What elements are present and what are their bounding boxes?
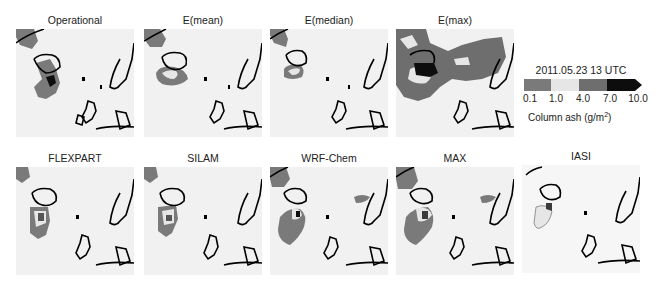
tick-label: 7.0 — [603, 93, 617, 104]
colorbar-seg-1 — [551, 79, 579, 91]
panel-title: Operational — [16, 14, 134, 26]
colorbar-ticks: 0.1 1.0 4.0 7.0 10.0 — [520, 93, 658, 105]
panel-title: E(max) — [396, 14, 514, 26]
ash-map — [16, 29, 134, 137]
ash-map — [270, 29, 388, 137]
tick-label: 0.1 — [523, 93, 537, 104]
panel-title: IASI — [522, 150, 640, 162]
tick-label: 1.0 — [549, 93, 563, 104]
label-suffix: ) — [608, 112, 611, 123]
ash-map — [144, 29, 262, 137]
legend-date: 2011.05.23 13 UTC — [522, 64, 640, 76]
ash-map — [16, 167, 134, 275]
colorbar-seg-3 — [607, 79, 635, 91]
label-text: Column ash (g/m — [528, 112, 604, 123]
panel-title: E(mean) — [144, 14, 262, 26]
ash-map — [270, 167, 388, 275]
colorbar-extend-arrow-icon — [635, 79, 642, 91]
colorbar-seg-0 — [524, 79, 551, 91]
panel-title: SILAM — [144, 152, 262, 164]
panel-title: E(median) — [270, 14, 388, 26]
ash-map — [522, 165, 640, 273]
panel-title: FLEXPART — [16, 152, 134, 164]
colorbar-legend: 2011.05.23 13 UTC 0.1 1.0 4.0 7.0 10.0 C… — [520, 64, 658, 123]
colorbar-label: Column ash (g/m2) — [528, 111, 658, 123]
colorbar-seg-2 — [579, 79, 607, 91]
panel-title: WRF-Chem — [270, 152, 388, 164]
colorbar — [524, 79, 642, 91]
tick-label: 10.0 — [628, 93, 647, 104]
ash-map — [396, 29, 514, 137]
panel-title: MAX — [396, 152, 514, 164]
ash-map — [396, 167, 514, 275]
ash-map — [144, 167, 262, 275]
tick-label: 4.0 — [576, 93, 590, 104]
